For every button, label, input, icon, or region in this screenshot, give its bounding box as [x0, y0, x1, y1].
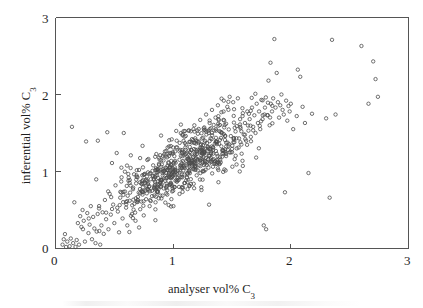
- y-axis-title: inferential vol% C3: [20, 56, 36, 216]
- y-axis-title-subscript: 3: [28, 87, 38, 92]
- scatter-plot-figure: 0 1 2 3 0 1 2 3 analyser vol% C3 inferen…: [0, 0, 423, 308]
- x-tick-label-1: 1: [169, 254, 176, 267]
- y-tick-label-0: 0: [42, 242, 49, 255]
- x-tick-label-0: 0: [51, 254, 58, 267]
- page-scan-artifact: [62, 301, 362, 306]
- x-axis-title-text: analyser vol% C: [168, 282, 251, 296]
- y-tick-label-1: 1: [42, 166, 49, 179]
- y-tick-label-3: 3: [42, 12, 49, 25]
- x-tick-label-3: 3: [404, 254, 411, 267]
- x-tick-label-2: 2: [286, 254, 293, 267]
- plot-canvas: [0, 0, 423, 308]
- x-axis-title-subscript: 3: [251, 291, 256, 301]
- y-axis-title-text: inferential vol% C: [19, 92, 33, 184]
- x-axis-title: analyser vol% C3: [0, 283, 423, 299]
- y-tick-label-2: 2: [42, 89, 49, 102]
